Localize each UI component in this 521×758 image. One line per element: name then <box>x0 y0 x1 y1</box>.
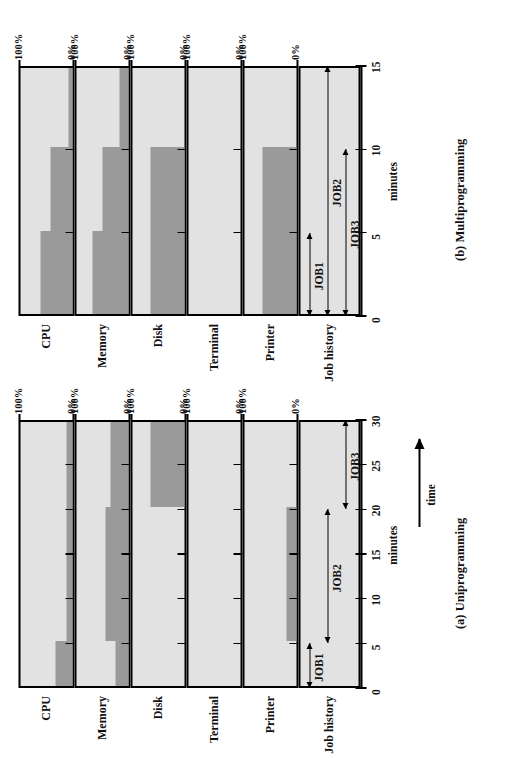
x-tick <box>355 315 366 317</box>
scale-dash-100 <box>186 60 188 66</box>
scale-label-100: 100% <box>68 34 79 60</box>
panel-caption-multiprogramming: (b) Multiprogramming <box>452 139 467 261</box>
scale-dash-0 <box>128 60 130 66</box>
segment <box>50 147 72 230</box>
job-label-job1: JOB1 <box>312 262 324 290</box>
scale-label-100: 100% <box>236 34 247 60</box>
track-multiprogramming-disk <box>130 66 186 316</box>
scale-label-0: 0% <box>289 44 300 60</box>
scale-dash-100 <box>18 60 20 66</box>
segment <box>262 147 296 314</box>
segment <box>150 147 184 314</box>
job-label-job2: JOB2 <box>330 179 342 207</box>
scale-dash-100 <box>130 60 132 66</box>
job-label-job3: JOB3 <box>348 221 360 249</box>
x-tick <box>355 149 366 151</box>
track-multiprogramming-printer <box>242 66 298 316</box>
segment <box>40 231 72 314</box>
x-tick-label: 15 <box>369 62 381 74</box>
x-axis-title-multiprogramming: minutes <box>386 162 398 201</box>
scale-dash-0 <box>184 60 186 66</box>
segment <box>68 66 72 147</box>
job-arrow-job2 <box>327 66 328 316</box>
job-arrow-job1 <box>309 233 310 316</box>
job-history-box-multiprogramming <box>298 66 360 316</box>
track-label-memory: Memory <box>94 324 109 402</box>
job-arrow-job3 <box>345 149 346 316</box>
x-axis-multiprogramming <box>360 66 362 316</box>
scale-label-100: 100% <box>180 34 191 60</box>
scale-dash-0 <box>296 60 298 66</box>
segment <box>92 231 128 314</box>
x-tick <box>355 232 366 234</box>
track-label-disk: Disk <box>150 324 165 402</box>
x-tick <box>355 65 366 67</box>
track-label-printer: Printer <box>262 324 277 402</box>
segment <box>102 147 128 230</box>
track-label-terminal: Terminal <box>206 324 221 402</box>
scale-label-100: 100% <box>124 34 135 60</box>
track-multiprogramming-cpu <box>18 66 74 316</box>
x-tick-label: 0 <box>369 317 381 323</box>
x-tick-label: 10 <box>369 145 381 157</box>
scale-dash-100 <box>242 60 244 66</box>
job-history-label: Job history <box>321 324 336 402</box>
track-label-cpu: CPU <box>38 324 53 402</box>
track-multiprogramming-terminal <box>186 66 242 316</box>
track-multiprogramming-memory <box>74 66 130 316</box>
scale-dash-0 <box>72 60 74 66</box>
scale-dash-100 <box>74 60 76 66</box>
x-tick-label: 5 <box>369 234 381 240</box>
segment <box>119 66 128 147</box>
scale-label-100: 100% <box>12 34 23 60</box>
scale-dash-0 <box>240 60 242 66</box>
